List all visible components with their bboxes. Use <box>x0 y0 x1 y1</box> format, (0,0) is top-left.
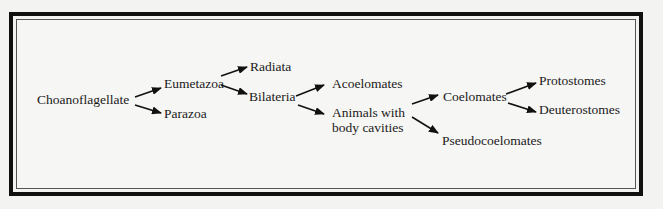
arrow-eumetazoa-bilateria <box>221 85 247 94</box>
arrow-coelomates-protostomes <box>506 83 536 94</box>
arrow-choano-parazoa <box>135 105 161 113</box>
node-protostomes: Protostomes <box>539 73 606 88</box>
node-eumetazoa: Eumetazoa <box>164 76 224 91</box>
node-pseudocoelomates: Pseudocoelomates <box>442 133 542 148</box>
node-deuterostomes: Deuterostomes <box>539 102 620 117</box>
node-bilateria: Bilateria <box>249 89 295 104</box>
arrow-coelomates-deuterostomes <box>508 103 536 112</box>
arrow-bilateria-animals-cavities <box>298 105 324 114</box>
node-choanoflagellate: Choanoflagellate <box>37 92 129 107</box>
node-animals-with-body-cavities-line1: Animals with <box>332 105 405 120</box>
arrow-cavities-pseudocoelomates <box>412 117 438 133</box>
arrow-eumetazoa-radiata <box>221 67 247 76</box>
node-animals-with-body-cavities-line2: body cavities <box>332 120 404 135</box>
node-radiata: Radiata <box>250 59 291 74</box>
arrow-choano-eumetazoa <box>135 88 161 97</box>
node-parazoa: Parazoa <box>164 106 207 121</box>
node-coelomates: Coelomates <box>443 89 507 104</box>
arrow-bilateria-acoelomates <box>296 85 324 96</box>
arrow-cavities-coelomates <box>412 95 438 104</box>
node-acoelomates: Acoelomates <box>332 76 402 91</box>
